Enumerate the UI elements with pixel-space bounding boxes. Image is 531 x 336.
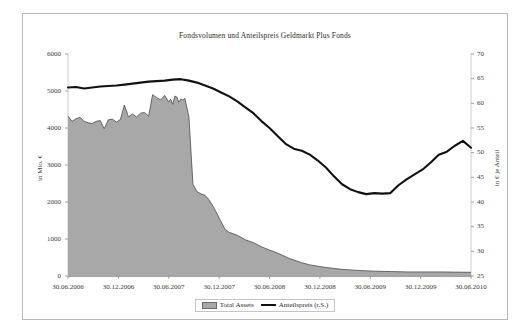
area-swatch-icon <box>202 302 217 309</box>
series-total-assets-area <box>68 95 471 276</box>
y-tick-label-left: 0 <box>58 272 62 280</box>
line-swatch-icon <box>261 304 276 307</box>
x-tick-label: 30.06.2007 <box>153 283 185 291</box>
y-tick-label-right: 25 <box>477 272 484 280</box>
y-tick-label-left: 1000 <box>47 235 61 243</box>
y-tick-label-right: 35 <box>477 222 484 230</box>
y-tick-label-right: 45 <box>477 173 484 181</box>
x-tick-label: 30.06.2009 <box>355 283 387 291</box>
y-tick-label-left: 5000 <box>47 87 61 95</box>
y-tick-label-left: 3000 <box>47 161 61 169</box>
y-tick-label-right: 70 <box>477 50 484 58</box>
legend-label-anteilspreis: Anteilspreis (r.S.) <box>279 301 329 309</box>
y-tick-label-right: 60 <box>477 99 484 107</box>
x-tick-label: 30.12.2009 <box>405 283 437 291</box>
legend-item-anteilspreis[interactable]: Anteilspreis (r.S.) <box>261 301 329 309</box>
legend-label-total-assets: Total Assets <box>220 301 254 309</box>
y-tick-label-left: 4000 <box>47 124 61 132</box>
x-tick-label: 30.12.2008 <box>304 283 336 291</box>
y-tick-label-right: 40 <box>477 198 484 206</box>
legend-item-total-assets[interactable]: Total Assets <box>202 301 254 309</box>
y-tick-label-left: 6000 <box>47 50 61 58</box>
chart-legend: Total Assets Anteilspreis (r.S.) <box>23 299 507 312</box>
x-tick-label: 30.12.2006 <box>103 283 135 291</box>
y-tick-label-right: 30 <box>477 247 484 255</box>
plot-canvas <box>23 14 509 321</box>
y-tick-label-right: 55 <box>477 124 484 132</box>
x-tick-label: 30.12.2007 <box>203 283 235 291</box>
y-axis-right-title: in € je Anteil <box>493 138 501 198</box>
y-tick-label-right: 50 <box>477 148 484 156</box>
y-tick-label-right: 65 <box>477 74 484 82</box>
x-tick-label: 30.06.2010 <box>455 283 487 291</box>
y-axis-left-title: in Mio. € <box>36 138 44 198</box>
legend-box: Total Assets Anteilspreis (r.S.) <box>195 299 336 312</box>
x-tick-label: 30.06.2008 <box>254 283 286 291</box>
chart-figure: Fondsvolumen und Anteilspreis Geldmarkt … <box>22 13 508 320</box>
y-tick-label-left: 2000 <box>47 198 61 206</box>
x-tick-label: 30.06.2006 <box>52 283 84 291</box>
